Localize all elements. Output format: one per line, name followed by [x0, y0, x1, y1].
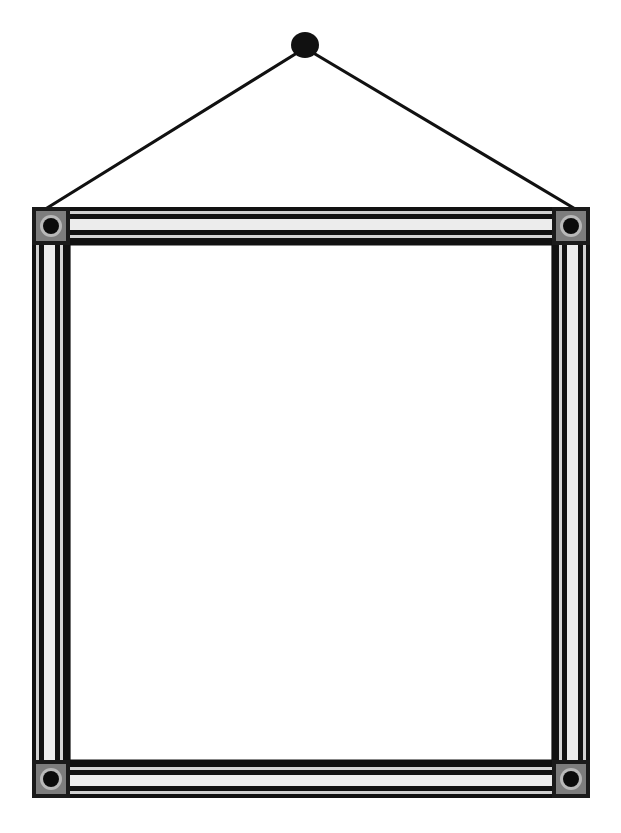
frame-band-left-5 [60, 235, 63, 770]
frame-band-top-0 [32, 207, 590, 211]
frame-band-top-6 [63, 238, 559, 245]
corner-bracket-bottom-left-hole [43, 771, 59, 787]
frame-rail-bottom [32, 760, 590, 798]
corner-bracket-bottom-right-hole [563, 771, 579, 787]
corner-bracket-top-left-hole [43, 218, 59, 234]
screenshot-root [0, 0, 621, 833]
frame-band-left-4 [55, 230, 60, 775]
frame-band-right-6 [552, 238, 559, 767]
corner-bracket-top-right-hole [563, 218, 579, 234]
frame-band-top-2 [39, 214, 583, 219]
frame-illustration [0, 0, 621, 833]
frame-band-bottom-5 [60, 767, 562, 770]
corner-bracket-bottom-right [552, 760, 590, 798]
frame-band-bottom-4 [55, 770, 567, 775]
corner-bracket-top-right [552, 207, 590, 245]
frame-band-left-3 [44, 219, 55, 786]
frame-band-right-0 [586, 207, 590, 798]
frame-band-bottom-1 [36, 791, 586, 794]
frame-rail-top [32, 207, 590, 245]
frame-band-right-2 [578, 214, 583, 791]
frame-band-top-5 [60, 235, 562, 238]
frame-band-bottom-2 [39, 786, 583, 791]
frame-band-top-1 [36, 211, 586, 214]
corner-bracket-top-left [32, 207, 70, 245]
frame-band-bottom-3 [44, 775, 578, 786]
frame-band-left-0 [32, 207, 36, 798]
frame-band-top-3 [44, 219, 578, 230]
nail-head [291, 32, 319, 58]
frame-band-bottom-6 [63, 760, 559, 767]
frame-band-left-2 [39, 214, 44, 791]
frame-band-left-6 [63, 238, 70, 767]
frame-inner-mat [70, 245, 552, 760]
frame-band-left-1 [36, 211, 39, 794]
frame-band-right-4 [562, 230, 567, 775]
frame-band-right-5 [559, 235, 562, 770]
picture-frame [32, 207, 590, 798]
frame-rail-left [32, 207, 70, 798]
frame-band-right-1 [583, 211, 586, 794]
frame-rail-right [552, 207, 590, 798]
frame-band-top-4 [55, 230, 567, 235]
frame-band-right-3 [567, 219, 578, 786]
frame-band-bottom-0 [32, 794, 590, 798]
corner-bracket-bottom-left [32, 760, 70, 798]
